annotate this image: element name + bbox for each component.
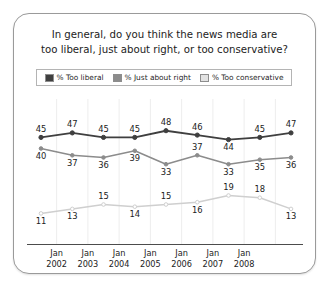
data-point-label: 18	[254, 184, 265, 194]
data-point-label: 45	[36, 124, 47, 134]
data-point-marker	[164, 162, 168, 166]
data-point-label: 19	[223, 182, 234, 192]
legend-item-too-liberal: % Too liberal	[45, 73, 104, 82]
data-point-label: 14	[129, 209, 140, 219]
data-point-label: 36	[98, 160, 109, 170]
legend-swatch-icon	[45, 74, 54, 82]
line-chart-plot-area: 4547454548464445474037363933373335361113…	[27, 99, 303, 244]
data-point-marker	[226, 138, 230, 142]
data-point-label: 13	[286, 211, 297, 221]
data-point-label: 46	[192, 122, 203, 132]
data-point-marker	[227, 194, 231, 198]
data-point-label: 15	[98, 191, 109, 201]
data-point-marker	[39, 212, 43, 216]
data-point-marker	[39, 135, 43, 139]
data-point-marker	[101, 135, 105, 139]
tick-month: Jan	[223, 248, 265, 259]
data-point-marker	[133, 205, 137, 209]
data-point-marker	[289, 131, 293, 135]
data-point-label: 45	[98, 124, 109, 134]
data-point-marker	[102, 156, 106, 160]
data-point-label: 13	[67, 211, 78, 221]
x-axis-tick: Jan2008	[223, 248, 265, 269]
data-point-marker	[195, 133, 199, 137]
data-point-marker	[196, 154, 200, 158]
data-point-marker	[39, 147, 43, 151]
data-point-marker	[71, 207, 75, 211]
x-axis-line	[27, 244, 303, 245]
data-point-marker	[258, 135, 262, 139]
data-point-label: 47	[286, 119, 297, 129]
legend-item-too-conservative: % Too conservative	[200, 73, 284, 82]
data-point-label: 39	[129, 153, 140, 163]
data-point-marker	[258, 196, 262, 200]
legend-swatch-icon	[113, 74, 122, 82]
data-point-label: 11	[36, 216, 47, 226]
data-point-label: 37	[67, 158, 78, 168]
data-point-marker	[289, 156, 293, 160]
legend-swatch-icon	[200, 74, 209, 82]
data-point-label: 45	[254, 124, 265, 134]
data-point-label: 33	[223, 167, 234, 177]
chart-card: In general, do you think the news media …	[13, 13, 316, 274]
data-point-marker	[133, 135, 137, 139]
data-point-label: 47	[67, 119, 78, 129]
title-line-1: In general, do you think the news media …	[24, 28, 305, 43]
data-point-marker	[70, 131, 74, 135]
chart-legend: % Too liberal % Just about right % Too c…	[36, 69, 292, 86]
legend-label: % Just about right	[125, 73, 191, 82]
data-point-label: 45	[129, 124, 140, 134]
tick-year: 2008	[223, 259, 265, 270]
data-point-marker	[258, 158, 262, 162]
data-point-marker	[164, 203, 168, 207]
data-point-marker	[164, 129, 168, 133]
data-point-marker	[102, 203, 106, 207]
data-point-label: 44	[223, 142, 234, 152]
legend-label: % Too liberal	[57, 73, 104, 82]
data-point-marker	[196, 200, 200, 204]
data-point-label: 36	[286, 160, 297, 170]
data-point-label: 48	[161, 117, 172, 127]
data-point-marker	[133, 149, 137, 153]
data-point-marker	[227, 162, 231, 166]
title-line-2: too liberal, just about right, or too co…	[24, 43, 305, 58]
x-axis: Jan2002Jan2003Jan2004Jan2005Jan2006Jan20…	[27, 244, 303, 274]
data-point-label: 33	[161, 167, 172, 177]
data-point-marker	[71, 154, 75, 158]
legend-item-just-about-right: % Just about right	[113, 73, 191, 82]
data-point-label: 37	[192, 142, 203, 152]
data-point-label: 15	[161, 191, 172, 201]
data-point-label: 35	[254, 162, 265, 172]
page-title: In general, do you think the news media …	[24, 28, 305, 57]
data-point-label: 16	[192, 205, 203, 215]
data-point-label: 40	[36, 151, 47, 161]
chart-svg: 4547454548464445474037363933373335361113…	[27, 99, 303, 244]
data-point-marker	[289, 207, 293, 211]
legend-label: % Too conservative	[212, 73, 284, 82]
